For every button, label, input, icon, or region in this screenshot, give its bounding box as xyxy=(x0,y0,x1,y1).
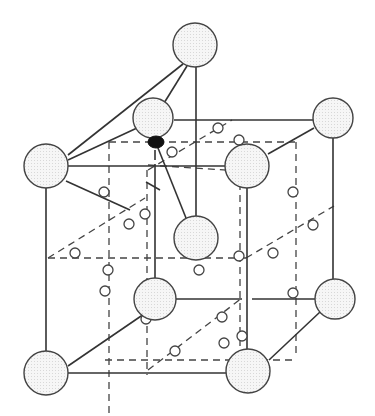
large-atom-right-back-lower xyxy=(315,279,355,319)
solid-bond xyxy=(269,312,320,360)
large-atom-left-upper xyxy=(24,144,68,188)
small-atom xyxy=(237,331,247,341)
small-atom xyxy=(194,265,204,275)
dark-atom xyxy=(148,136,164,148)
small-atom xyxy=(288,288,298,298)
small-atom xyxy=(167,147,177,157)
large-atoms xyxy=(24,23,355,395)
small-atom xyxy=(308,220,318,230)
dark-atom xyxy=(148,136,164,148)
crystal-structure-diagram xyxy=(0,0,375,416)
dashed-bond xyxy=(246,206,334,258)
large-atom-center-hanging xyxy=(174,216,218,260)
large-atom-right-back-upper xyxy=(313,98,353,138)
small-atom xyxy=(213,123,223,133)
small-atom xyxy=(140,209,150,219)
large-atom-bottom-right xyxy=(226,349,270,393)
dashed-edges xyxy=(48,120,334,415)
large-atom-bottom-left xyxy=(24,351,68,395)
large-atom-back-left-lower xyxy=(134,278,176,320)
small-atom xyxy=(288,187,298,197)
solid-bond xyxy=(68,128,137,160)
small-atom xyxy=(234,135,244,145)
small-atom xyxy=(170,346,180,356)
large-atom-right-front-upper xyxy=(225,144,269,188)
small-atom xyxy=(268,248,278,258)
small-atom xyxy=(103,265,113,275)
small-atom xyxy=(219,338,229,348)
large-atom-upper-mid xyxy=(133,98,173,138)
large-atom-top xyxy=(173,23,217,67)
solid-bond xyxy=(66,181,130,210)
small-atom xyxy=(234,251,244,261)
solid-bond xyxy=(268,128,314,154)
small-atom xyxy=(217,312,227,322)
solid-bond xyxy=(68,312,147,366)
solid-bond xyxy=(146,182,160,190)
small-atom xyxy=(124,219,134,229)
small-atom xyxy=(99,187,109,197)
small-atom xyxy=(70,248,80,258)
small-atom xyxy=(100,286,110,296)
